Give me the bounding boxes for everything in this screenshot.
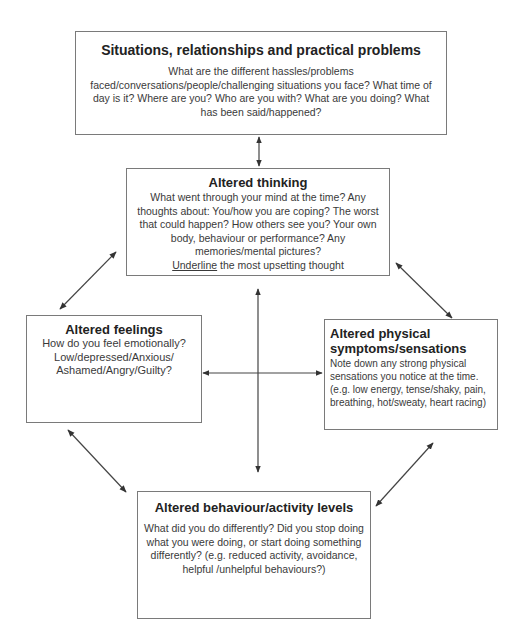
- arrow-thinking-physical: [396, 263, 452, 318]
- situations-body: What are the different hassles/problems …: [84, 65, 438, 119]
- thinking-instruction: Underline the most upsetting thought: [131, 259, 385, 273]
- feelings-title: Altered feelings: [31, 322, 197, 337]
- thinking-title: Altered thinking: [131, 175, 385, 190]
- underline-rest: the most upsetting thought: [217, 259, 344, 271]
- physical-box: Altered physical symptoms/sensations Not…: [324, 319, 498, 430]
- situations-box: Situations, relationships and practical …: [75, 31, 447, 135]
- feelings-body: How do you feel emotionally? Low/depress…: [31, 337, 197, 378]
- arrow-feelings-behaviour: [68, 430, 126, 492]
- behaviour-box: Altered behaviour/activity levels What d…: [137, 491, 371, 619]
- physical-title: Altered physical symptoms/sensations: [330, 326, 493, 356]
- underline-word: Underline: [172, 259, 217, 271]
- feelings-box: Altered feelings How do you feel emotion…: [26, 315, 202, 423]
- behaviour-body: What did you do differently? Did you sto…: [144, 522, 364, 576]
- situations-title: Situations, relationships and practical …: [84, 42, 438, 58]
- thinking-body: What went through your mind at the time?…: [131, 191, 385, 259]
- physical-body: Note down any strong physical sensations…: [330, 357, 493, 409]
- behaviour-title: Altered behaviour/activity levels: [144, 500, 364, 515]
- arrow-thinking-feelings: [60, 252, 116, 309]
- arrow-physical-behaviour: [376, 443, 433, 506]
- thinking-box: Altered thinking What went through your …: [126, 168, 390, 276]
